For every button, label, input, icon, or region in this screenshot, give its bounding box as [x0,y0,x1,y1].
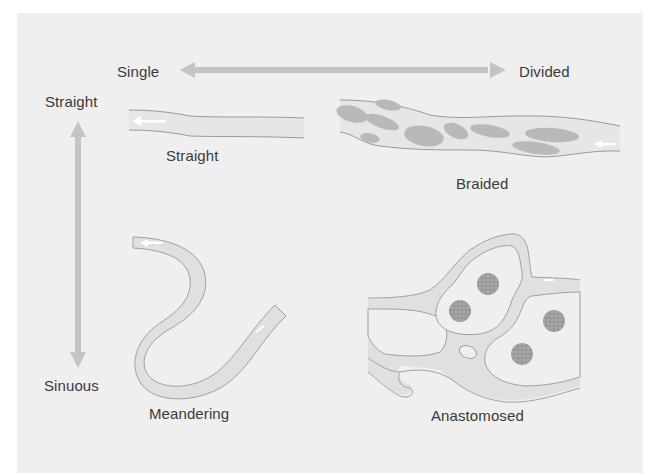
straight-channel-illustration [129,110,304,138]
arrowhead-up-icon [70,121,86,137]
axis-label-single: Single [117,63,159,81]
axis-label-straight: Straight [45,93,98,111]
arrowhead-down-icon [70,352,86,368]
vertical-axis-arrow [70,121,86,368]
pattern-label-anastomosed: Anastomosed [431,407,524,425]
braided-channel-illustration [334,97,620,157]
horizontal-axis-arrow [180,62,506,78]
pattern-label-meandering: Meandering [149,405,229,423]
meandering-channel-illustration [133,237,286,399]
flow-arrow-icon [544,279,554,281]
pattern-label-braided: Braided [456,175,508,193]
arrowhead-left-icon [180,62,195,78]
arrowhead-right-icon [490,62,506,78]
axis-label-divided: Divided [519,63,570,81]
anastomosed-channel-illustration [368,234,580,403]
pattern-label-straight: Straight [166,147,219,165]
axis-label-sinuous: Sinuous [44,377,99,395]
